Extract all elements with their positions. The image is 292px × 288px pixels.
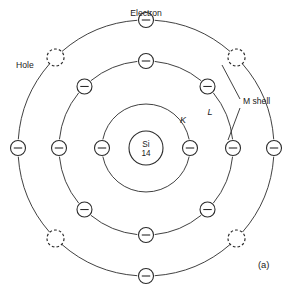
electron-callout-label: Electron: [130, 8, 162, 18]
electron-l-5: [77, 202, 92, 217]
electron-l-7: [200, 202, 215, 217]
hole-callout-label: Hole: [16, 60, 34, 70]
hole-dashed-icon-1: [47, 49, 64, 66]
electron-k-0: [183, 141, 198, 156]
m-shell-leader-line: [222, 65, 240, 99]
atom-diagram: Si14ElectronHoleM shellKL(a): [0, 0, 292, 288]
nucleus: Si14: [129, 131, 163, 165]
electron-m-2: [11, 141, 26, 156]
electron-l-0: [226, 141, 241, 156]
electron-l-3: [77, 79, 92, 94]
electron-l-6: [139, 228, 154, 243]
k-shell-label: K: [180, 115, 187, 125]
electron-m-0: [267, 141, 282, 156]
nucleus-symbol: Si: [142, 140, 149, 149]
electron-l-4: [52, 141, 67, 156]
electron-l-2: [139, 54, 154, 69]
electron-k-1: [95, 141, 110, 156]
electron-l-1: [200, 79, 215, 94]
electron-m-3: [139, 269, 154, 284]
hole-dashed-icon-2: [47, 230, 64, 247]
nucleus-atomic-number: 14: [141, 149, 151, 158]
m-shell-callout-label: M shell: [243, 96, 270, 106]
hole-dashed-icon-0: [228, 49, 245, 66]
silicon-atom-figure: Si14ElectronHoleM shellKL(a) Si 14 Elect…: [0, 0, 292, 288]
hole-dashed-icon-3: [228, 230, 245, 247]
l-shell-label: L: [207, 107, 212, 117]
panel-label: (a): [258, 259, 269, 270]
